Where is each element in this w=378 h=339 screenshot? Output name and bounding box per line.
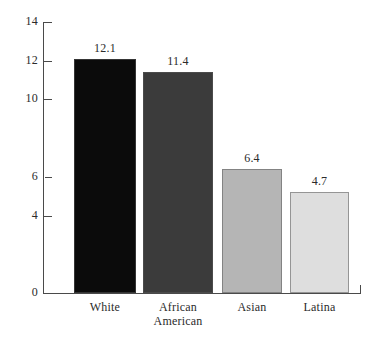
bar — [143, 72, 213, 293]
y-axis-tick-12 — [43, 61, 52, 62]
bar — [74, 59, 136, 293]
x-axis-right-cap — [360, 285, 361, 294]
y-axis-tick-0 — [43, 293, 52, 294]
y-axis-label-14: 14 — [14, 14, 38, 29]
y-axis-tick-14 — [43, 22, 52, 23]
bar — [290, 192, 349, 293]
y-axis-label-12: 12 — [14, 53, 38, 68]
y-axis-label-4: 4 — [14, 208, 38, 223]
y-axis-line — [43, 22, 44, 294]
bar-value-label: 4.7 — [290, 174, 349, 189]
bar-value-label: 12.1 — [74, 41, 136, 56]
bar — [222, 169, 282, 293]
y-axis-label-10: 10 — [14, 91, 38, 106]
bar-value-label: 11.4 — [143, 54, 213, 69]
y-axis-tick-4 — [43, 216, 52, 217]
y-axis-tick-6 — [45, 177, 52, 178]
y-axis-label-0: 0 — [14, 285, 38, 300]
x-axis-category-label: Latina — [276, 300, 363, 314]
bar-chart: 046101214 12.1White11.4African American6… — [0, 0, 378, 339]
y-axis-tick-10 — [43, 99, 52, 100]
bar-value-label: 6.4 — [222, 151, 282, 166]
y-axis-label-6: 6 — [14, 169, 38, 184]
x-axis-line — [43, 293, 361, 294]
